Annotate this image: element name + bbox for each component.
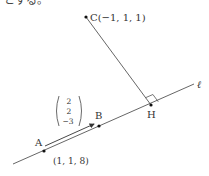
point-c	[84, 15, 87, 18]
point-h-label: H	[147, 109, 156, 120]
point-c-label: C(−1, 1, 1)	[90, 12, 146, 23]
segment-ch	[86, 17, 151, 105]
point-b-label: B	[95, 110, 102, 121]
left-paren	[57, 96, 60, 126]
point-a	[42, 149, 45, 152]
line-l-label: ℓ	[197, 79, 201, 90]
direction-arrow	[45, 124, 94, 146]
diagram-canvas: とする。 ℓ C(−1, 1, 1) H A B (1, 1, 8) 2 2 −…	[0, 0, 209, 176]
point-h	[149, 103, 152, 106]
right-paren	[79, 96, 82, 126]
vector-component-x: 2	[67, 97, 72, 106]
direction-vector: 2 2 −3	[57, 96, 82, 126]
vector-component-z: −3	[62, 117, 73, 126]
vector-component-y: 2	[67, 107, 72, 116]
point-b	[97, 124, 100, 127]
point-a-coordinates: (1, 1, 8)	[53, 156, 89, 166]
header-text: とする。	[4, 0, 48, 7]
point-a-label: A	[34, 137, 43, 148]
line-l	[13, 84, 194, 164]
